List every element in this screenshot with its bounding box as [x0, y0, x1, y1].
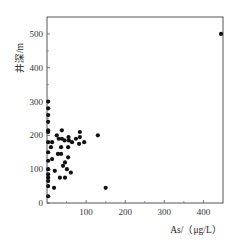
y-tick-label: 300 — [30, 97, 44, 107]
data-point — [96, 133, 100, 137]
data-point — [74, 137, 78, 141]
data-point — [219, 32, 223, 36]
y-tick-label: 400 — [30, 63, 44, 73]
data-point — [46, 167, 50, 171]
data-point — [59, 145, 63, 149]
y-tick-label: 0 — [39, 198, 44, 208]
data-point — [77, 142, 81, 146]
plot-frame — [47, 17, 223, 203]
data-point — [46, 140, 50, 144]
y-tick-label: 500 — [30, 29, 44, 39]
data-point — [46, 179, 50, 183]
data-point — [104, 186, 108, 190]
data-point — [49, 145, 53, 149]
data-point — [46, 99, 50, 103]
data-point — [46, 106, 50, 110]
data-point — [78, 135, 82, 139]
data-point — [59, 152, 63, 156]
x-tick-label: 100 — [79, 207, 93, 217]
x-tick-label: 200 — [118, 207, 132, 217]
x-tick-label: 300 — [158, 207, 172, 217]
data-point — [52, 186, 56, 190]
data-point — [61, 164, 65, 168]
data-point — [46, 113, 50, 117]
data-point — [66, 145, 70, 149]
data-point — [60, 128, 64, 132]
data-point — [66, 155, 70, 159]
x-axis-label: As/（μg/L） — [170, 224, 221, 235]
data-point — [53, 169, 57, 173]
data-point — [69, 170, 73, 174]
data-point — [50, 157, 54, 161]
data-point — [46, 120, 50, 124]
plot-border — [47, 17, 223, 203]
y-axis-label: 井深/m — [14, 42, 25, 73]
scatter-chart: 0100200300400500 100200300400 井深/m As/（μ… — [0, 0, 237, 245]
data-point — [70, 140, 74, 144]
data-point — [50, 140, 54, 144]
data-point — [46, 150, 50, 154]
data-point — [63, 138, 67, 142]
data-point — [46, 159, 50, 163]
x-tick-label: 400 — [197, 207, 211, 217]
data-point — [63, 176, 67, 180]
data-point — [65, 167, 69, 171]
data-point — [82, 140, 86, 144]
data-point — [46, 194, 50, 198]
data-points — [46, 32, 223, 199]
data-point — [58, 176, 62, 180]
data-point — [46, 130, 50, 134]
data-point — [78, 130, 82, 134]
data-point — [46, 184, 50, 188]
y-tick-label: 100 — [30, 164, 44, 174]
y-tick-label: 200 — [30, 130, 44, 140]
